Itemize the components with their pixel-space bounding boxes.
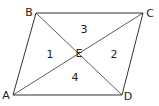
parallelogram-diagram: A B C D E 1 2 3 4 bbox=[0, 0, 159, 106]
region-label-1: 1 bbox=[47, 49, 54, 60]
vertex-label-c: C bbox=[146, 8, 154, 19]
region-label-2: 2 bbox=[111, 49, 118, 60]
vertex-label-d: D bbox=[124, 91, 132, 102]
region-label-4: 4 bbox=[72, 72, 79, 83]
vertex-label-b: B bbox=[25, 7, 33, 18]
vertex-label-a: A bbox=[2, 90, 10, 101]
region-label-3: 3 bbox=[81, 24, 88, 35]
vertex-label-e: E bbox=[76, 48, 83, 59]
